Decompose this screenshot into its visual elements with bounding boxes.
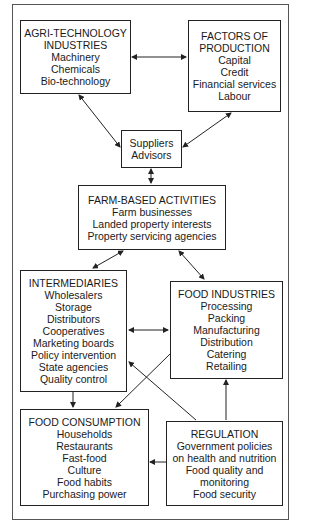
box-title: FACTORS OF	[201, 30, 268, 42]
box-item: Advisors	[131, 149, 171, 161]
box-item: Capital	[218, 54, 251, 66]
box-item: Processing	[201, 300, 253, 312]
box-item: Packing	[208, 312, 245, 324]
box-item: Manufacturing	[193, 324, 260, 336]
box-item: Food security	[193, 488, 256, 500]
box-item: Government policies	[177, 440, 273, 452]
box-item: Restaurants	[56, 440, 113, 452]
box-item: monitoring	[200, 476, 249, 488]
box-item: Policy intervention	[31, 349, 116, 361]
box-title: FARM-BASED ACTIVITIES	[88, 194, 216, 206]
box-item: Marketing boards	[33, 337, 114, 349]
box-item: Labour	[218, 90, 251, 102]
box-title: FOOD CONSUMPTION	[29, 416, 141, 428]
box-item: Food habits	[57, 476, 112, 488]
box-title: AGRI-TECHNOLOGY	[24, 27, 127, 39]
food-consumption-box: FOOD CONSUMPTION Households Restaurants …	[20, 409, 149, 506]
box-item: Property servicing agencies	[88, 230, 217, 242]
food-industries-box: FOOD INDUSTRIES Processing Packing Manuf…	[170, 281, 283, 379]
suppliers-advisors-box: Suppliers Advisors	[121, 130, 182, 168]
box-item: Wholesalers	[45, 289, 103, 301]
box-item: Farm businesses	[112, 206, 192, 218]
farm-based-activities-box: FARM-BASED ACTIVITIES Farm businesses La…	[78, 185, 226, 250]
agri-technology-industries-box: AGRI-TECHNOLOGY INDUSTRIES Machinery Che…	[20, 20, 131, 94]
box-item: Fast-food	[62, 452, 106, 464]
box-item: Households	[57, 428, 112, 440]
box-title: REGULATION	[191, 428, 258, 440]
box-item: Credit	[220, 66, 248, 78]
factors-of-production-box: FACTORS OF PRODUCTION Capital Credit Fin…	[188, 20, 281, 112]
box-title: PRODUCTION	[199, 42, 270, 54]
intermediaries-box: INTERMEDIARIES Wholesalers Storage Distr…	[20, 270, 127, 392]
box-item: Storage	[55, 301, 92, 313]
box-title: INTERMEDIARIES	[29, 277, 118, 289]
box-item: Machinery	[51, 51, 99, 63]
box-item: Financial services	[193, 78, 276, 90]
box-item: Cooperatives	[43, 325, 105, 337]
box-item: Distribution	[200, 336, 253, 348]
box-item: Suppliers	[130, 137, 174, 149]
box-item: Quality control	[40, 373, 107, 385]
box-item: Culture	[68, 464, 102, 476]
box-item: Purchasing power	[42, 488, 126, 500]
box-item: State agencies	[39, 361, 108, 373]
box-title: INDUSTRIES	[44, 39, 108, 51]
box-item: on health and nutrition	[173, 452, 277, 464]
box-title: FOOD INDUSTRIES	[178, 288, 275, 300]
box-item: Landed property interests	[92, 218, 211, 230]
box-item: Catering	[207, 348, 247, 360]
regulation-box: REGULATION Government policies on health…	[166, 421, 283, 506]
box-item: Distributors	[47, 313, 100, 325]
box-item: Food quality and	[186, 464, 264, 476]
box-item: Retailing	[206, 360, 247, 372]
box-item: Chemicals	[51, 63, 100, 75]
box-item: Bio-technology	[41, 75, 110, 87]
